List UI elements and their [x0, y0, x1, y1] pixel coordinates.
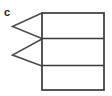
rectangle-fill — [42, 13, 104, 90]
chevron-upper-icon — [13, 13, 43, 39]
chevron-lower-icon — [13, 39, 43, 66]
diagram-canvas: c — [0, 0, 112, 96]
panel-label-c: c — [4, 6, 10, 18]
diagram-vector — [0, 0, 112, 96]
